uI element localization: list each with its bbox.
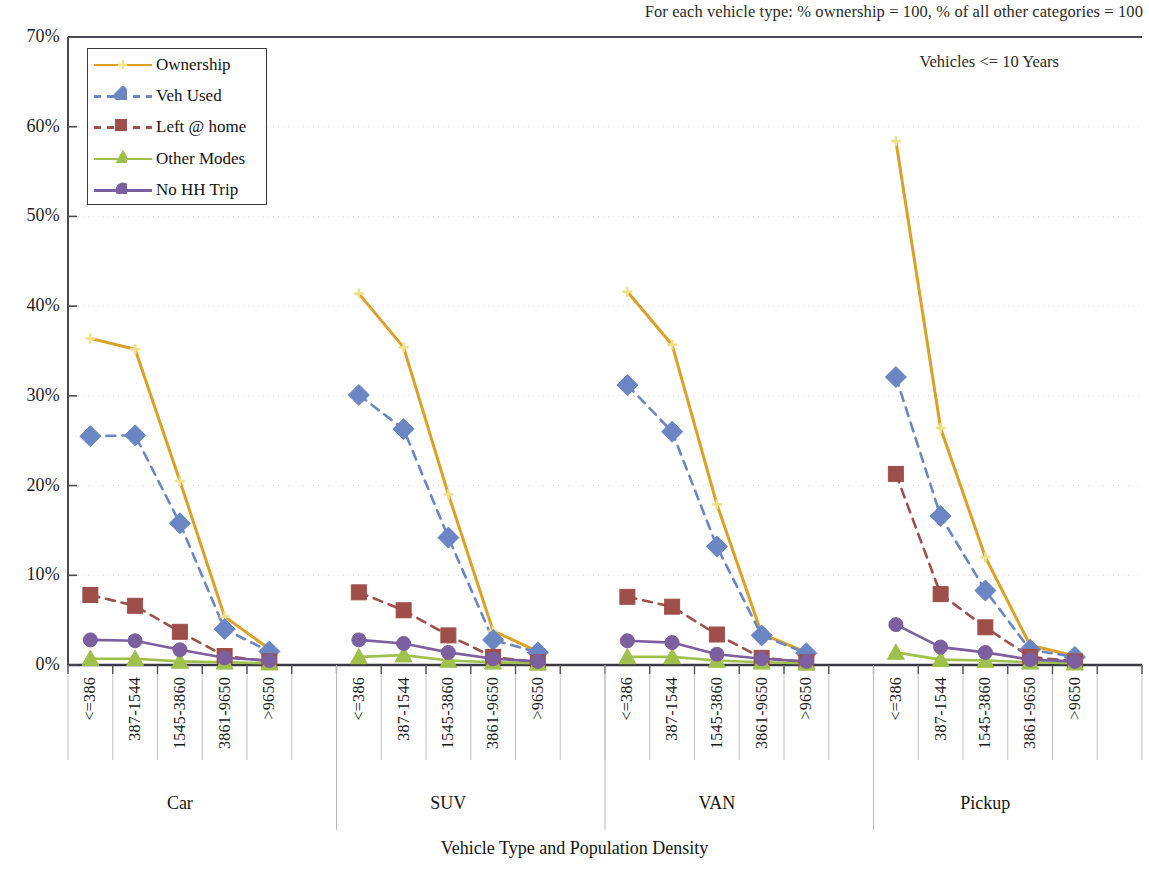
legend-key-diamond-icon [94, 86, 152, 106]
legend-item-left-home[interactable]: Left @ home [88, 112, 266, 143]
data-point-cross [85, 333, 95, 343]
x-tick-label: 387-1544 [663, 677, 681, 741]
x-tick-label: 1545-3860 [171, 677, 189, 749]
data-point-cross [936, 423, 946, 433]
data-point-cross [118, 60, 127, 69]
data-point-circle [116, 183, 127, 194]
data-point-diamond [438, 527, 459, 548]
data-point-square [978, 620, 993, 635]
data-point-circle [978, 645, 992, 659]
x-tick-label: <=386 [618, 677, 636, 721]
group-label-pickup: Pickup [874, 793, 1098, 814]
data-point-square [665, 599, 680, 614]
x-tick-label: >9650 [529, 677, 547, 720]
legend-key-triangle-icon [94, 149, 152, 169]
data-point-square [888, 466, 903, 481]
legend-item-no-hh-trip[interactable]: No HH Trip [88, 175, 266, 206]
data-point-diamond [125, 425, 146, 446]
data-point-square [396, 603, 411, 618]
data-point-circle [352, 633, 366, 647]
group-label-suv: SUV [337, 793, 561, 814]
data-point-circle [531, 654, 545, 668]
data-point-square [128, 598, 143, 613]
series-ownership [90, 141, 1075, 656]
data-point-circle [441, 645, 455, 659]
data-point-circle [710, 647, 724, 661]
legend-item-veh-used[interactable]: Veh Used [88, 80, 266, 111]
data-point-square [351, 585, 366, 600]
data-point-circle [889, 618, 903, 632]
data-point-diamond [751, 625, 772, 646]
chart-container: For each vehicle type: % ownership = 100… [0, 0, 1149, 874]
x-tick-label: 3861-9650 [216, 677, 234, 749]
data-point-circle [665, 636, 679, 650]
series-veh-used [90, 377, 1075, 657]
data-point-diamond [706, 536, 727, 557]
data-point-square [172, 624, 187, 639]
legend-label: Veh Used [152, 86, 222, 106]
x-tick-label: <=386 [887, 677, 905, 721]
data-point-square [83, 588, 98, 603]
data-point-circle [218, 651, 232, 665]
x-tick-label: 387-1544 [395, 677, 413, 741]
legend-label: Left @ home [152, 117, 246, 137]
data-point-square [116, 120, 128, 132]
data-point-circle [755, 652, 769, 666]
data-point-diamond [617, 375, 638, 396]
data-point-circle [1023, 653, 1037, 667]
x-tick-label: >9650 [1066, 677, 1084, 720]
data-point-circle [397, 636, 411, 650]
x-tick-label: 3861-9650 [753, 677, 771, 749]
data-point-square [709, 627, 724, 642]
markers-ownership [85, 136, 1080, 661]
x-tick-label: 1545-3860 [976, 677, 994, 749]
data-point-circle [173, 643, 187, 657]
series-no-hh-trip [90, 625, 1075, 662]
legend: OwnershipVeh UsedLeft @ homeOther ModesN… [87, 48, 267, 205]
x-tick-label: 3861-9650 [484, 677, 502, 749]
x-tick-label: >9650 [260, 677, 278, 720]
data-point-diamond [885, 367, 906, 388]
data-point-diamond [169, 513, 190, 534]
legend-label: No HH Trip [152, 180, 238, 200]
data-point-diamond [348, 384, 369, 405]
legend-key-circle-icon [94, 180, 152, 200]
legend-key-cross-icon [94, 55, 152, 75]
legend-label: Other Modes [152, 149, 245, 169]
x-tick-label: 387-1544 [932, 677, 950, 741]
data-point-circle [1068, 654, 1082, 668]
data-point-diamond [113, 86, 127, 100]
data-point-diamond [80, 426, 101, 447]
data-point-square [620, 589, 635, 604]
x-tick-label: <=386 [350, 677, 368, 721]
markers-left-home [83, 466, 1083, 669]
data-point-triangle [115, 150, 128, 163]
data-point-circle [799, 654, 813, 668]
data-point-cross [891, 136, 901, 146]
data-point-circle [934, 640, 948, 654]
data-point-cross [712, 499, 722, 509]
legend-item-ownership[interactable]: Ownership [88, 49, 266, 80]
x-axis-title: Vehicle Type and Population Density [0, 838, 1149, 859]
x-tick-label: 3861-9650 [1021, 677, 1039, 749]
data-point-diamond [393, 419, 414, 440]
data-point-circle [262, 654, 276, 668]
x-tick-label: <=386 [81, 677, 99, 721]
data-point-square [441, 628, 456, 643]
x-tick-label: 387-1544 [126, 677, 144, 741]
data-point-diamond [930, 506, 951, 527]
data-point-diamond [483, 629, 504, 650]
legend-label: Ownership [152, 55, 231, 75]
data-point-circle [83, 633, 97, 647]
group-label-van: VAN [605, 793, 829, 814]
series-left-home [90, 474, 1075, 662]
legend-item-other-modes[interactable]: Other Modes [88, 143, 266, 174]
legend-key-square-icon [94, 117, 152, 137]
data-point-cross [175, 476, 185, 486]
data-point-cross [130, 344, 140, 354]
data-point-circle [128, 634, 142, 648]
data-point-cross [443, 490, 453, 500]
data-point-triangle [887, 644, 904, 659]
data-point-square [933, 587, 948, 602]
data-point-diamond [975, 580, 996, 601]
